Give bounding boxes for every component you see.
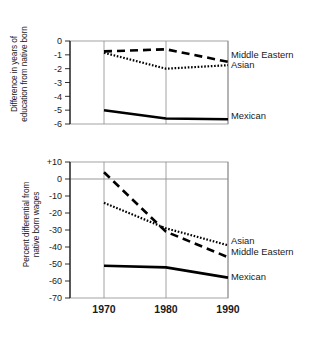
education-y-axis-label: Difference in years of education from na…: [10, 15, 29, 133]
wages-x-ticklabel-1980: 1980: [154, 303, 178, 315]
education-plot-frame: [70, 41, 228, 124]
education-label-asian: Asian: [231, 59, 254, 70]
education-y-ticklabel-2: -2: [54, 64, 62, 74]
wages-y-ticklabel-m40: -40: [49, 242, 62, 252]
wages-x-ticklabel-1990: 1990: [216, 303, 240, 315]
figure-root: Difference in years of education from na…: [0, 0, 317, 338]
wages-label-middle-eastern: Middle Eastern: [231, 246, 294, 257]
education-y-ticklabel-6: -6: [54, 119, 62, 129]
wages-y-ticklabel-m70: -70: [49, 293, 62, 303]
education-y-ticklabel-1: -1: [54, 50, 62, 60]
wages-y-ticklabel-m10: -10: [49, 191, 62, 201]
wages-y-ticklabel-m50: -50: [49, 259, 62, 269]
wages-plot-frame: [70, 162, 228, 298]
education-y-ticklabel-3: -3: [54, 78, 62, 88]
wages-label-mexican: Mexican: [231, 271, 266, 282]
wages-y-ticklabel-m20: -20: [49, 208, 62, 218]
education-y-ticklabel-5: -5: [54, 105, 62, 115]
education-y-axis-label-line2: education from native born: [20, 15, 30, 133]
wages-chart: Percent differential from native born wa…: [0, 150, 317, 338]
education-y-ticklabel-4: -4: [54, 92, 62, 102]
wages-x-ticklabel-1970: 1970: [92, 303, 116, 315]
education-y-tick-labels: 0 -1 -2 -3 -4 -5 -6: [54, 36, 62, 129]
wages-y-ticklabel-m60: -60: [49, 276, 62, 286]
wages-plot-svg: +10 0 -10 -20 -30 -40 -50 -60 -70 Asian …: [0, 150, 317, 338]
education-plot-svg: 0 -1 -2 -3 -4 -5 -6 Middle Eastern Asian…: [0, 0, 317, 150]
wages-y-ticklabel-0: 0: [57, 174, 62, 184]
wages-y-tick-labels: +10 0 -10 -20 -30 -40 -50 -60 -70: [47, 157, 62, 303]
education-chart: Difference in years of education from na…: [0, 0, 317, 150]
education-label-middle-eastern: Middle Eastern: [231, 49, 294, 60]
wages-label-asian: Asian: [231, 235, 254, 246]
education-label-mexican: Mexican: [231, 110, 266, 121]
wages-y-ticklabel-m30: -30: [49, 225, 62, 235]
wages-x-tick-labels: 1970 1980 1990: [92, 303, 240, 315]
education-y-ticklabel-0: 0: [57, 36, 62, 46]
wages-y-ticklabel-p10: +10: [47, 157, 62, 167]
